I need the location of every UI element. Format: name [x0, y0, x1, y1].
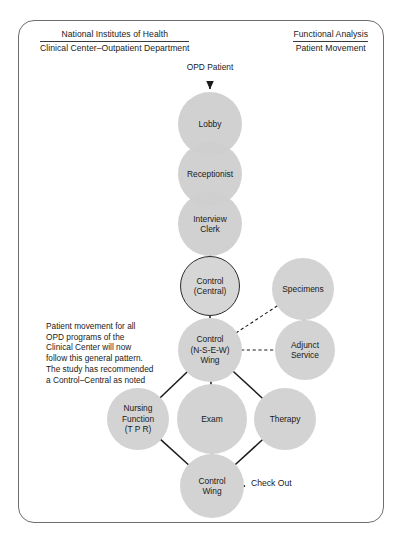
node-therapy: Therapy — [254, 388, 316, 450]
node-label-adjunct: Adjunct Service — [289, 340, 321, 361]
node-control_wing: Control Wing — [180, 454, 244, 518]
node-label-therapy: Therapy — [268, 414, 303, 424]
node-control_central: Control (Central) — [180, 256, 240, 316]
node-label-nursing: Nursing Function (T P R) — [120, 403, 156, 434]
header-right: Functional Analysis Patient Movement — [293, 29, 368, 55]
header-right-line1: Functional Analysis — [293, 29, 368, 42]
node-label-interview: Interview Clerk — [191, 214, 229, 235]
entry-label-opd-patient: OPD Patient — [178, 62, 242, 73]
diagram-canvas: National Institutes of Health Clinical C… — [0, 0, 402, 543]
node-adjunct: Adjunct Service — [275, 320, 335, 380]
node-exam: Exam — [177, 384, 247, 454]
node-label-control_wing: Control Wing — [197, 476, 228, 497]
node-label-specimens: Specimens — [280, 284, 325, 294]
node-interview: Interview Clerk — [178, 192, 242, 256]
header-left-line2: Clinical Center–Outpatient Department — [40, 42, 189, 55]
node-label-lobby: Lobby — [197, 119, 224, 129]
header-left: National Institutes of Health Clinical C… — [40, 29, 189, 55]
node-label-control_wing_nsew: Control (N-S-E-W) Wing — [188, 334, 231, 365]
node-label-receptionist: Receptionist — [185, 169, 235, 179]
header-left-line1: National Institutes of Health — [40, 29, 189, 42]
explanatory-note: Patient movement for all OPD programs of… — [46, 321, 192, 385]
node-nursing: Nursing Function (T P R) — [107, 388, 169, 450]
header-right-line2: Patient Movement — [293, 42, 368, 55]
node-specimens: Specimens — [272, 258, 334, 320]
node-label-control_central: Control (Central) — [192, 276, 229, 297]
exit-label-check-out: Check Out — [251, 478, 292, 489]
node-control_wing_nsew: Control (N-S-E-W) Wing — [178, 318, 242, 382]
node-label-exam: Exam — [199, 414, 224, 424]
